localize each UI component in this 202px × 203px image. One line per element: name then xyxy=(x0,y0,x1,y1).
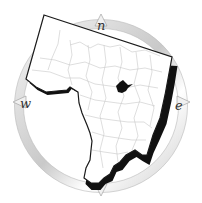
compass-label-east: e xyxy=(175,98,183,113)
compass-label-west: w xyxy=(20,96,31,111)
compass-label-north: n xyxy=(97,18,105,33)
county-map: n w e xyxy=(0,0,202,203)
